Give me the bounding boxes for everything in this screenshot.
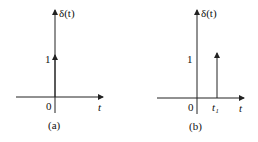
y-axis-label: δ(t) (59, 7, 75, 20)
panel-b: δ(t) 1 0 t₁ t (b) (157, 7, 244, 133)
origin-label: 0 (188, 101, 194, 113)
origin-label: 0 (46, 100, 52, 112)
panel-caption: (a) (48, 119, 61, 132)
panel-a: δ(t) 1 0 t (a) (16, 7, 103, 132)
y-axis-label: δ(t) (201, 7, 217, 20)
impulse-position-label: t₁ (212, 101, 219, 113)
impulse-diagram: δ(t) 1 0 t (a) δ(t) 1 0 t₁ t (b) (0, 0, 258, 142)
panel-caption: (b) (189, 120, 202, 133)
x-axis-label: t (239, 102, 243, 114)
x-axis-label: t (98, 101, 102, 113)
impulse-height-label: 1 (45, 53, 51, 65)
impulse-height-label: 1 (187, 53, 193, 65)
